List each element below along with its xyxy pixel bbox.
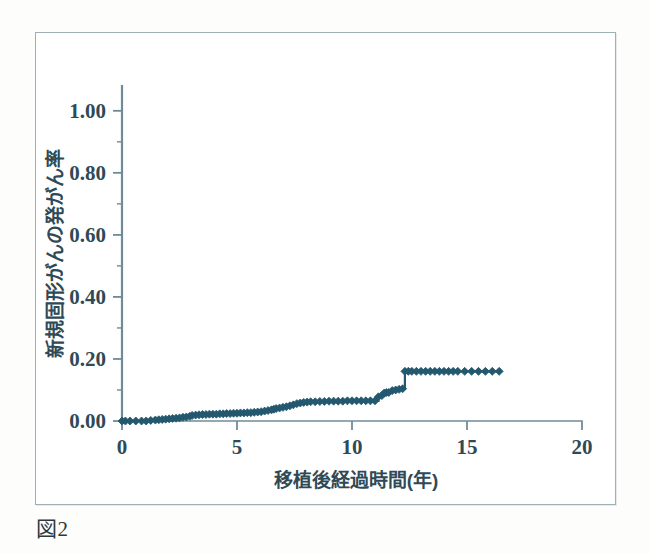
chart-plot-area: 0.000.200.400.600.801.0005101520移植後経過時間(… [36,33,617,506]
x-tick-label: 0 [117,435,128,459]
step-curve [122,371,499,421]
figure-frame: 0.000.200.400.600.801.0005101520移植後経過時間(… [35,32,616,505]
axes-layer [113,86,582,430]
data-series-layer [118,367,503,425]
x-axis-title: 移植後経過時間(年) [274,469,439,491]
x-tick-label: 20 [572,435,593,459]
axis-labels-layer: 0.000.200.400.600.801.0005101520移植後経過時間(… [44,99,593,491]
x-tick-label: 15 [457,435,478,459]
x-tick-label: 10 [342,435,363,459]
figure-caption: 図2 [36,512,69,542]
y-tick-label: 0.00 [69,409,106,433]
cumulative-incidence-chart: 0.000.200.400.600.801.0005101520移植後経過時間(… [36,33,617,506]
y-axis-title: 新規固形がんの発がん率 [44,149,66,358]
y-tick-label: 0.60 [69,223,106,247]
data-point-marker [495,367,503,375]
y-tick-label: 0.20 [69,347,106,371]
figure-root: 0.000.200.400.600.801.0005101520移植後経過時間(… [0,0,650,554]
y-tick-label: 0.80 [69,161,106,185]
y-tick-label: 1.00 [69,99,106,123]
x-tick-label: 5 [232,435,243,459]
y-tick-label: 0.40 [69,285,106,309]
